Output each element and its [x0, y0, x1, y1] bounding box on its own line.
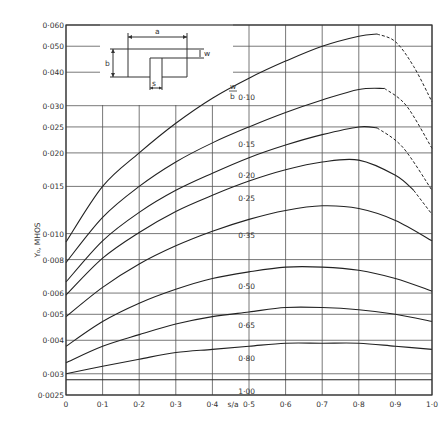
legend-title: w b	[229, 82, 237, 101]
x-tick-label: 0·8	[353, 400, 365, 409]
curve-label: 0·65	[238, 321, 255, 330]
curve-label: 0·35	[238, 231, 255, 240]
x-axis-ticks: 00·10·20·30·40·50·60·70·80·91·0	[64, 400, 439, 409]
curve-label: 0·80	[238, 354, 255, 363]
x-tick-label: 0·4	[206, 400, 218, 409]
legend-title-w: w	[230, 82, 236, 91]
curve-dashed	[377, 34, 432, 102]
y-tick-label: 0·030	[43, 102, 65, 111]
x-tick-label: 0·1	[97, 400, 109, 409]
curve-label: 0·20	[238, 171, 255, 180]
curve-label: 1·00	[238, 387, 255, 396]
y-tick-label: 0·010	[43, 230, 65, 239]
y-tick-label: 0·060	[43, 21, 65, 30]
y-tick-label: 0·004	[43, 336, 65, 345]
curve-label: 0·15	[238, 140, 255, 149]
y-tick-label: 0·005	[43, 310, 65, 319]
inset-label-a: a	[155, 27, 160, 36]
inset-label-s: s	[152, 79, 156, 88]
x-tick-label: 0·5	[243, 400, 255, 409]
inset-label-w: w	[204, 49, 210, 58]
curve-label: 0·25	[238, 194, 255, 203]
y-tick-label: 0·0025	[38, 391, 64, 400]
y-tick-label: 0·025	[43, 123, 65, 132]
x-tick-label: 0·9	[389, 400, 401, 409]
curve-dashed	[414, 190, 432, 214]
legend-title-b: b	[230, 92, 235, 101]
x-axis-label: s/a	[227, 400, 238, 409]
curve-dashed	[384, 88, 432, 148]
curve-solid	[66, 88, 384, 262]
y-axis-ticks: 0·0600·0500·0400·0300·0250·0200·0150·010…	[38, 21, 64, 400]
curve-solid	[66, 127, 377, 282]
x-tick-label: 0	[64, 400, 69, 409]
inset-label-b: b	[105, 59, 110, 68]
curve-dashed	[377, 128, 432, 190]
y-tick-label: 0·006	[43, 289, 65, 298]
y-tick-label: 0·020	[43, 149, 65, 158]
y-tick-label: 0·050	[43, 42, 65, 51]
x-tick-label: 0·2	[133, 400, 145, 409]
y-tick-label: 0·015	[43, 182, 65, 191]
x-tick-label: 1·0	[426, 400, 438, 409]
y-tick-label: 0·003	[43, 370, 65, 379]
chart: 0·0600·0500·0400·0300·0250·0200·0150·010…	[0, 0, 448, 433]
curve-label: 0·50	[238, 282, 255, 291]
x-tick-label: 0·3	[170, 400, 182, 409]
inset-background	[100, 20, 233, 105]
y-tick-label: 0·008	[43, 256, 65, 265]
y-axis-label: Y₀, MHOS	[33, 222, 42, 258]
curve-label: 0·10	[238, 93, 255, 102]
x-tick-label: 0·7	[316, 400, 328, 409]
x-tick-label: 0·6	[280, 400, 292, 409]
y-tick-label: 0·040	[43, 68, 65, 77]
